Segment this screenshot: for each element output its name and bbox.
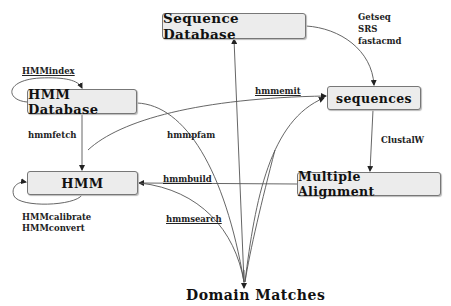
- label-srs: SRS: [358, 24, 377, 35]
- label-hmmsearch: hmmsearch: [166, 214, 222, 225]
- label-hmmfetch: hmmfetch: [28, 130, 77, 141]
- label-hmmbuild: hmmbuild: [163, 174, 212, 185]
- node-label: Multiple Alignment: [298, 169, 440, 199]
- edge-matches-seqdb: [234, 39, 244, 282]
- edge-hmmsearch: [140, 183, 244, 282]
- label-hmmcalibrate: HMMcalibrate: [22, 212, 91, 223]
- node-multiple-alignment: Multiple Alignment: [297, 172, 441, 196]
- label-getseq: Getseq: [358, 12, 391, 23]
- label-hmmconvert: HMMconvert: [22, 223, 85, 234]
- edge-to-matches-right: [245, 150, 275, 282]
- node-label: sequences: [336, 91, 412, 106]
- label-hmmindex: HMMindex: [22, 66, 75, 77]
- label-hmmemit: hmmemit: [255, 86, 301, 97]
- node-hmm: HMM: [27, 171, 138, 195]
- node-label: HMM: [61, 176, 103, 191]
- label-hmmpfam: hmmpfam: [167, 130, 215, 141]
- label-clustalw: ClustalW: [381, 135, 424, 146]
- node-sequence-database: Sequence Database: [162, 13, 306, 39]
- edge-clustalw: [370, 110, 373, 171]
- node-sequences: sequences: [327, 86, 421, 110]
- node-hmm-database: HMM Database: [27, 89, 137, 114]
- node-domain-matches: Domain Matches: [186, 287, 325, 303]
- node-label: HMM Database: [28, 87, 136, 117]
- node-label: Sequence Database: [163, 10, 305, 42]
- label-fastacmd: fastacmd: [358, 36, 402, 47]
